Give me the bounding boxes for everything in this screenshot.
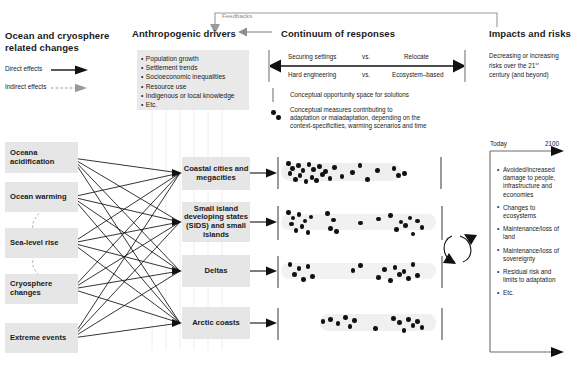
system-label: Deltas bbox=[205, 267, 228, 276]
system-label: Small island developing states (SIDS) an… bbox=[182, 205, 250, 239]
response-measure-dot bbox=[289, 222, 294, 227]
response-measure-dot bbox=[352, 318, 357, 323]
response-measure-dot bbox=[321, 319, 326, 324]
response-measure-dot bbox=[420, 325, 425, 330]
change-label: Cryosphere changes bbox=[10, 280, 78, 298]
system-box-deltas[interactable]: Deltas bbox=[182, 255, 250, 287]
response-measure-dot bbox=[388, 278, 393, 283]
response-measure-dot bbox=[402, 171, 407, 176]
timeline-end-label: 2100 bbox=[545, 140, 559, 148]
response-measure-dot bbox=[314, 178, 319, 183]
response-measure-dot bbox=[304, 179, 309, 184]
driver-item: Resource use bbox=[146, 83, 187, 90]
system-label: Arctic coasts bbox=[192, 319, 240, 328]
impact-item: Maintenance/loss of sovereignty bbox=[497, 247, 567, 263]
scale-bottom-mid-label: vs. bbox=[362, 71, 370, 79]
response-measure-dot bbox=[300, 224, 305, 229]
change-label: Sea-level rise bbox=[10, 239, 59, 248]
response-measure-dot bbox=[286, 161, 291, 166]
driver-item: Etc. bbox=[146, 101, 157, 108]
legend-opportunity-bar-icon bbox=[272, 88, 274, 102]
change-box-sea-level-rise[interactable]: Sea-level rise bbox=[5, 228, 78, 258]
impact-item: Residual risk and limits to adaptation bbox=[497, 268, 567, 284]
response-measure-dot bbox=[296, 163, 301, 168]
change-box-ocean-acidification[interactable]: Oceana acidification bbox=[5, 142, 78, 173]
response-measure-dot bbox=[358, 221, 363, 226]
response-measure-dot bbox=[334, 229, 339, 234]
scale-top-mid-label: vs. bbox=[362, 53, 370, 61]
response-measure-dot bbox=[382, 267, 387, 272]
impact-item: Etc. bbox=[497, 289, 567, 297]
anthropogenic-drivers-list: Population growth Settlement trends Soci… bbox=[137, 50, 249, 110]
response-measure-dot bbox=[420, 225, 425, 230]
timeline-start-label: Today bbox=[490, 140, 507, 148]
response-measure-dot bbox=[396, 173, 401, 178]
response-measure-dot bbox=[310, 274, 315, 279]
response-measure-dot bbox=[306, 230, 311, 235]
response-dots-deltas bbox=[277, 256, 443, 288]
system-box-small-island-developing-states[interactable]: Small island developing states (SIDS) an… bbox=[182, 202, 250, 242]
response-measure-dot bbox=[288, 171, 293, 176]
response-measure-dot bbox=[365, 177, 370, 182]
drivers-column-title: Anthropogenic drivers bbox=[132, 28, 252, 40]
impacts-subtitle-line3: century (and beyond) bbox=[489, 71, 549, 78]
system-box-coastal-cities[interactable]: Coastal cities and megacities bbox=[182, 157, 250, 190]
response-measure-dot bbox=[358, 163, 363, 168]
legend-measure-dot-icon-a bbox=[271, 110, 276, 115]
driver-item: Population growth bbox=[146, 55, 199, 62]
response-measure-dot bbox=[403, 223, 408, 228]
response-measure-dot bbox=[351, 268, 356, 273]
change-box-ocean-warming[interactable]: Ocean warming bbox=[5, 182, 78, 212]
legend-direct-arrow bbox=[51, 66, 88, 75]
response-measure-dot bbox=[394, 227, 399, 232]
scale-right-tick bbox=[464, 50, 466, 82]
response-measure-dot bbox=[325, 211, 330, 216]
response-measure-dot bbox=[332, 165, 337, 170]
response-measure-dot bbox=[406, 276, 411, 281]
impact-item: Avoided/increased damage to people, infr… bbox=[497, 166, 567, 199]
response-measure-dot bbox=[303, 219, 308, 224]
legend-indirect-effects-label: Indirect effects bbox=[5, 83, 46, 90]
system-to-response-arrows bbox=[249, 173, 268, 323]
responses-column-title: Continuum of responses bbox=[281, 28, 461, 40]
impacts-subtitle-line2: risks over the 21 bbox=[489, 62, 535, 69]
response-measure-dot bbox=[301, 277, 306, 282]
response-measure-dot bbox=[411, 262, 416, 267]
response-measure-dot bbox=[290, 166, 295, 171]
response-measure-dot bbox=[301, 168, 306, 173]
response-measure-dot bbox=[323, 169, 328, 174]
response-measure-dot bbox=[376, 217, 381, 222]
response-measure-dot bbox=[298, 173, 303, 178]
scale-bottom-left-label: Hard engineering bbox=[288, 71, 336, 79]
response-dots-arctic-coasts bbox=[277, 308, 443, 340]
response-measure-dot bbox=[294, 228, 299, 233]
system-box-arctic-coasts[interactable]: Arctic coasts bbox=[182, 307, 250, 339]
impacts-subtitle-superscript: st bbox=[535, 61, 538, 66]
response-measure-dot bbox=[297, 212, 302, 217]
response-measure-dot bbox=[408, 216, 413, 221]
response-measure-dot bbox=[375, 168, 380, 173]
driver-item: Indigenous or local knowledge bbox=[146, 92, 235, 99]
response-measure-dot bbox=[340, 174, 345, 179]
response-measure-dot bbox=[328, 317, 333, 322]
legend-measures-line1: Conceptual measures contributing to bbox=[290, 106, 393, 114]
response-measure-dot bbox=[331, 218, 336, 223]
response-measure-dot bbox=[328, 226, 333, 231]
change-box-cryosphere-changes[interactable]: Cryosphere changes bbox=[5, 274, 78, 304]
change-label: Oceana acidification bbox=[10, 149, 78, 167]
response-measure-dot bbox=[402, 269, 407, 274]
response-measure-dot bbox=[397, 272, 402, 277]
response-measure-dot bbox=[292, 272, 297, 277]
change-box-extreme-events[interactable]: Extreme events bbox=[5, 323, 78, 353]
response-measure-dot bbox=[328, 176, 333, 181]
driver-item: Socioeconomic inequalities bbox=[146, 73, 226, 80]
legend-opportunity-space-label: Conceptual opportunity space for solutio… bbox=[290, 91, 409, 99]
response-measure-dot bbox=[293, 177, 298, 182]
change-label: Ocean warming bbox=[10, 193, 67, 202]
response-measure-dot bbox=[291, 216, 296, 221]
response-measure-dot bbox=[348, 324, 353, 329]
response-measure-dot bbox=[373, 326, 378, 331]
response-measure-dot bbox=[306, 264, 311, 269]
impact-item: Maintenance/loss of land bbox=[497, 225, 567, 241]
response-measure-dot bbox=[311, 167, 316, 172]
